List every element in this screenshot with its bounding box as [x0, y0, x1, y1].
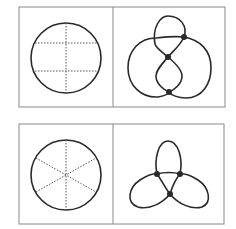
- crossing-dot: [168, 192, 172, 196]
- row-1-right-knot-figure: [128, 16, 211, 98]
- central-figure-eight: [155, 37, 184, 92]
- top-small-loop: [154, 16, 185, 44]
- row-2-frame: [19, 124, 224, 224]
- crossing-dot: [178, 172, 182, 176]
- trefoil-left-lobe: [130, 174, 170, 208]
- row-2-panel: [19, 124, 224, 224]
- outer-lobes: [128, 37, 211, 98]
- crossing-dot: [155, 172, 159, 176]
- crossing-dot: [166, 55, 170, 59]
- row-2-left-circle-figure: [31, 140, 101, 210]
- crossing-dot: [182, 35, 186, 39]
- trefoil-center-arc: [157, 173, 180, 175]
- crossing-dot: [167, 90, 171, 94]
- trefoil-right-lobe: [170, 174, 208, 208]
- trefoil-top-lobe: [156, 141, 181, 174]
- row-1-left-circle-figure: [31, 23, 101, 93]
- row-1-panel: [19, 7, 225, 107]
- row-1-frame: [19, 7, 225, 107]
- row-2-right-trefoil-figure: [130, 141, 208, 208]
- diagram-canvas: [0, 0, 236, 229]
